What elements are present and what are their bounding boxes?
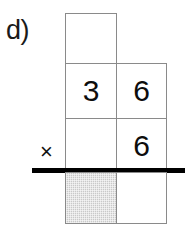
- multiplication-operator-symbol: ×: [40, 141, 53, 163]
- grid-cell-row4-ones[interactable]: [116, 172, 167, 224]
- worksheet-canvas: d) × 3 6 6: [0, 0, 192, 241]
- problem-label: d): [6, 17, 29, 44]
- grid-cell-row3-ones[interactable]: 6: [116, 118, 167, 173]
- grid-cell-row2-tens[interactable]: 3: [65, 63, 117, 119]
- grid-cell-row2-ones[interactable]: 6: [116, 63, 167, 119]
- grid-cell-row3-tens[interactable]: [65, 118, 117, 173]
- grid-cell-row1-tens[interactable]: [65, 13, 117, 64]
- grid-cell-row4-tens-shaded[interactable]: [65, 172, 117, 224]
